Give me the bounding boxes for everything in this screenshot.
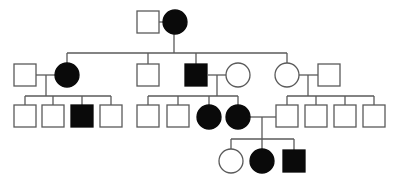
affected-male-square-IV-3 xyxy=(283,150,305,172)
unaffected-female-circle-II-5 xyxy=(226,63,250,87)
pedigree-chart xyxy=(0,0,397,179)
unaffected-male-square-II-7 xyxy=(318,64,340,86)
unaffected-male-square-III-1 xyxy=(14,105,36,127)
unaffected-male-square-III-4 xyxy=(100,105,122,127)
pedigree-svg xyxy=(0,0,397,179)
affected-female-circle-III-8 xyxy=(226,105,250,129)
unaffected-male-square-III-6 xyxy=(167,105,189,127)
affected-female-circle-I-2 xyxy=(163,10,187,34)
affected-male-square-II-4 xyxy=(185,64,207,86)
affected-female-circle-III-7 xyxy=(197,105,221,129)
unaffected-female-circle-II-6 xyxy=(275,63,299,87)
affected-male-square-III-3 xyxy=(71,105,93,127)
unaffected-male-square-III-11 xyxy=(334,105,356,127)
unaffected-male-square-III-5 xyxy=(137,105,159,127)
unaffected-male-square-III-9 xyxy=(276,105,298,127)
unaffected-female-circle-IV-1 xyxy=(219,149,243,173)
individual-symbols xyxy=(14,10,385,173)
affected-female-circle-II-2 xyxy=(55,63,79,87)
unaffected-male-square-III-12 xyxy=(363,105,385,127)
affected-female-circle-IV-2 xyxy=(250,149,274,173)
unaffected-male-square-III-2 xyxy=(42,105,64,127)
unaffected-male-square-II-1 xyxy=(14,64,36,86)
unaffected-male-square-II-3 xyxy=(137,64,159,86)
unaffected-male-square-III-10 xyxy=(305,105,327,127)
unaffected-male-square-I-1 xyxy=(137,11,159,33)
